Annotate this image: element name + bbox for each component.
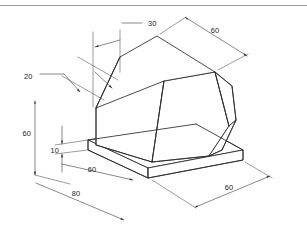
ext-line-tr-b [218,54,248,70]
dim-line-tr [188,19,247,56]
dim-label-base-thickness: 10 [50,146,59,155]
dim-label-top-right-depth: 60 [211,26,220,35]
dim-line-base-right [198,176,270,206]
ext-line-20-upper [78,57,118,80]
dim-label-chamfer-offset: 20 [24,72,33,81]
dim-label-base-left-depth: 60 [88,165,97,174]
ext-line-thickness-bottom [55,150,88,154]
ext-line-br-a [152,180,196,208]
isometric-drawing-canvas: 30 60 20 60 [0,0,307,233]
dim-base-thickness: 10 [50,126,88,172]
dim-label-overall-height: 60 [22,129,31,138]
dim-label-base-right-depth: 60 [225,183,234,192]
solid-body [88,36,243,178]
dim-line-top-width [95,40,120,47]
ext-line-height-bottom [35,175,70,184]
ext-line-20-lower [62,76,104,100]
ext-line-br-b [245,162,272,178]
dim-label-top-width: 30 [148,19,157,28]
dim-label-base-overall: 80 [72,189,81,198]
technical-drawing-root: 30 60 20 60 [0,0,307,233]
ext-line-thickness-top [55,140,88,145]
ext-line-tr-a [160,17,186,34]
dim-leader-20-angled [64,74,80,92]
dim-base-overall: 80 [36,183,124,220]
